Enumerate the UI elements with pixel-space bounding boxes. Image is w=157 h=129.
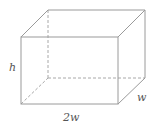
box-diagram: h w 2w [0,0,157,129]
hidden-edge-bottom-left-depth [21,78,48,104]
label-depth: w [137,91,147,104]
edge-top-left-depth [21,10,48,37]
label-height: h [9,61,16,74]
front-face [21,37,118,104]
label-width: 2w [62,111,80,124]
edge-top-right-depth [118,10,145,37]
